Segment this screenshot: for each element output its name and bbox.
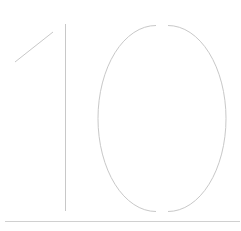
digit-one-flag: [15, 32, 53, 62]
digit-zero-left-arc: [98, 26, 156, 212]
digit-one: [15, 24, 66, 211]
digit-10-drawing: [0, 0, 241, 231]
digit-zero: [98, 26, 226, 212]
digit-zero-right-arc: [168, 26, 226, 212]
